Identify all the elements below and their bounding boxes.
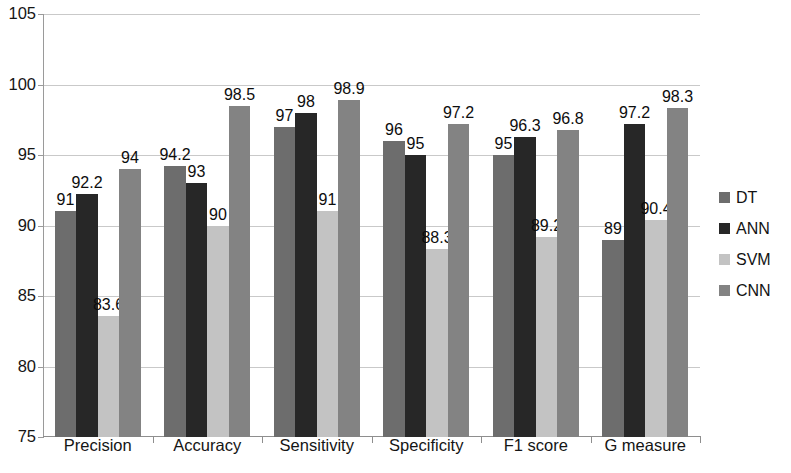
y-axis-tick-label: 95	[2, 145, 36, 164]
bar-value-label: 94.2	[153, 146, 197, 164]
bar-cnn-specificity	[448, 124, 470, 437]
gridline	[43, 14, 700, 15]
x-axis-label-g-measure: G measure	[591, 436, 701, 455]
legend-label: ANN	[736, 221, 770, 237]
bar-value-label: 98	[284, 93, 328, 111]
bar-dt-specificity	[383, 141, 405, 437]
legend-swatch-icon	[719, 254, 730, 265]
legend-label: DT	[736, 190, 757, 206]
chart-legend: DTANNSVMCNN	[719, 182, 789, 306]
x-axis-label-precision: Precision	[43, 436, 153, 455]
gridline	[43, 85, 700, 86]
x-axis-label-f1-score: F1 score	[481, 436, 591, 455]
bar-dt-g-measure	[602, 240, 624, 437]
x-axis-tick	[700, 436, 701, 443]
y-axis-tick-label: 105	[2, 4, 36, 23]
bar-ann-specificity	[405, 155, 427, 437]
legend-item-cnn[interactable]: CNN	[719, 275, 789, 306]
bar-value-label: 97.2	[613, 104, 657, 122]
y-axis-line	[43, 14, 44, 437]
bar-cnn-sensitivity	[338, 100, 360, 437]
legend-item-dt[interactable]: DT	[719, 182, 789, 213]
bar-dt-precision	[55, 211, 77, 437]
legend-swatch-icon	[719, 223, 730, 234]
y-axis-tick-label: 85	[2, 286, 36, 305]
legend-swatch-icon	[719, 192, 730, 203]
y-axis-tick-label: 90	[2, 216, 36, 235]
legend-label: SVM	[736, 252, 771, 268]
bar-svm-f1-score	[536, 237, 558, 437]
bar-value-label: 98.5	[218, 86, 262, 104]
bar-svm-specificity	[426, 249, 448, 437]
bar-cnn-g-measure	[667, 108, 689, 437]
bar-value-label: 93	[175, 163, 219, 181]
bar-value-label: 92.2	[65, 174, 109, 192]
legend-swatch-icon	[719, 285, 730, 296]
y-axis-tick-label: 75	[2, 427, 36, 446]
bar-value-label: 96.3	[503, 117, 547, 135]
x-axis-label-accuracy: Accuracy	[153, 436, 263, 455]
legend-item-svm[interactable]: SVM	[719, 244, 789, 275]
bar-cnn-precision	[119, 169, 141, 437]
bar-dt-accuracy	[164, 166, 186, 437]
bar-value-label: 95	[394, 135, 438, 153]
bar-svm-accuracy	[207, 226, 229, 438]
bar-ann-g-measure	[624, 124, 646, 437]
x-axis-label-sensitivity: Sensitivity	[262, 436, 372, 455]
bar-svm-sensitivity	[317, 211, 339, 437]
bar-ann-sensitivity	[295, 113, 317, 437]
bar-ann-precision	[76, 194, 98, 437]
plot-area: 9192.283.69494.2939098.597989198.9969588…	[43, 14, 700, 437]
bar-value-label: 98.3	[656, 88, 700, 106]
bar-value-label: 96.8	[546, 110, 590, 128]
legend-item-ann[interactable]: ANN	[719, 213, 789, 244]
y-axis-tick-label: 100	[2, 75, 36, 94]
x-axis-label-specificity: Specificity	[372, 436, 482, 455]
bar-cnn-accuracy	[229, 106, 251, 437]
bar-dt-sensitivity	[274, 127, 296, 437]
bar-chart: 7580859095100105 9192.283.69494.2939098.…	[0, 0, 791, 473]
legend-label: CNN	[736, 283, 771, 299]
bar-svm-g-measure	[645, 220, 667, 437]
bar-svm-precision	[98, 316, 120, 437]
y-axis-tick-label: 80	[2, 357, 36, 376]
bar-cnn-f1-score	[557, 130, 579, 437]
bar-dt-f1-score	[493, 155, 515, 437]
bar-value-label: 97.2	[437, 104, 481, 122]
bar-value-label: 94	[108, 149, 152, 167]
bar-ann-f1-score	[514, 137, 536, 437]
bar-value-label: 98.9	[327, 80, 371, 98]
